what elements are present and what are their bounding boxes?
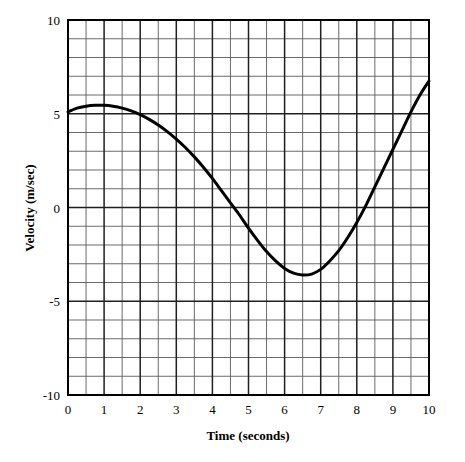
y-tick-label: -5 bbox=[49, 294, 60, 309]
x-tick-label: 2 bbox=[137, 402, 144, 417]
x-tick-label: 9 bbox=[390, 402, 397, 417]
y-tick-label: 10 bbox=[47, 13, 60, 28]
x-axis-title: Time (seconds) bbox=[206, 428, 289, 443]
y-tick-label: 5 bbox=[54, 107, 61, 122]
y-tick-label: -10 bbox=[43, 388, 60, 403]
chart-background bbox=[0, 0, 465, 462]
x-tick-label: 1 bbox=[101, 402, 108, 417]
y-tick-label: 0 bbox=[54, 201, 61, 216]
x-tick-label: 7 bbox=[317, 402, 324, 417]
y-axis-title: Velocity (m/sec) bbox=[22, 164, 37, 251]
x-tick-label: 0 bbox=[65, 402, 72, 417]
velocity-time-chart-figure: 012345678910 1050-5-10 Time (seconds) Ve… bbox=[0, 0, 465, 462]
x-tick-label: 4 bbox=[209, 402, 216, 417]
x-tick-label: 8 bbox=[354, 402, 361, 417]
x-tick-label: 10 bbox=[423, 402, 436, 417]
x-tick-label: 6 bbox=[281, 402, 288, 417]
x-tick-label: 5 bbox=[245, 402, 252, 417]
x-tick-label: 3 bbox=[173, 402, 180, 417]
chart-canvas: 012345678910 1050-5-10 Time (seconds) Ve… bbox=[0, 0, 465, 462]
